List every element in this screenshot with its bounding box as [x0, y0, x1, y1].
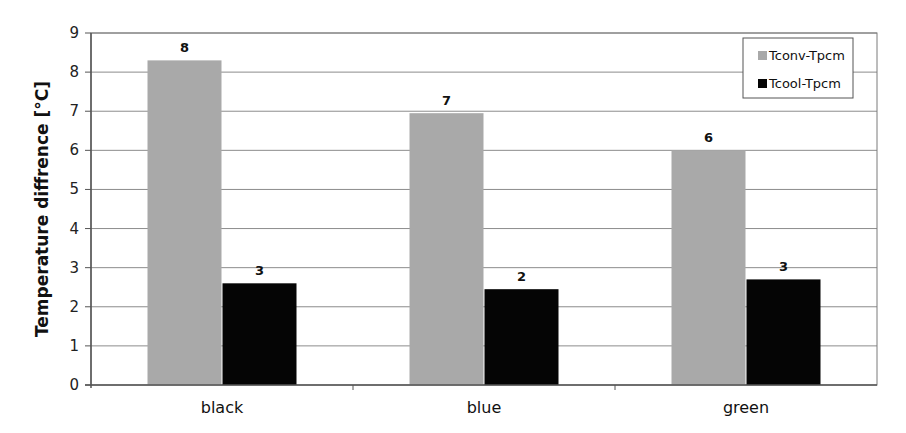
legend-swatch-tconv	[758, 51, 767, 60]
data-label: 8	[180, 40, 189, 55]
x-category-labels: blackbluegreen	[201, 398, 769, 417]
y-tick-label: 5	[69, 180, 79, 198]
bar-tconv-tpcm-blue	[410, 113, 484, 385]
y-tick-label: 9	[69, 24, 79, 42]
data-label: 3	[779, 259, 788, 274]
x-category-label: green	[723, 398, 769, 417]
y-tick-label: 6	[69, 141, 79, 159]
bars	[148, 60, 821, 385]
y-tick-label: 0	[69, 376, 79, 394]
data-label: 6	[704, 130, 713, 145]
bar-tconv-tpcm-black	[148, 60, 222, 385]
bar-chart: 0123456789 blackbluegreen 837263 Tempera…	[0, 0, 906, 433]
y-axis-title: Temperature diffrence [°C]	[32, 81, 52, 337]
bar-tcool-tpcm-black	[223, 283, 297, 385]
x-category-label: black	[201, 398, 244, 417]
y-tick-label: 2	[69, 298, 79, 316]
y-tick-label: 3	[69, 259, 79, 277]
legend: Tconv-Tpcm Tcool-Tpcm	[743, 38, 853, 98]
y-tick-label: 4	[69, 220, 79, 238]
bar-tcool-tpcm-blue	[485, 289, 559, 385]
data-label: 2	[517, 269, 526, 284]
bar-tcool-tpcm-green	[747, 279, 821, 385]
legend-swatch-tcool	[758, 79, 767, 88]
bar-tconv-tpcm-green	[672, 150, 746, 385]
x-category-label: blue	[467, 398, 502, 417]
y-tick-label: 8	[69, 63, 79, 81]
legend-label-tconv: Tconv-Tpcm	[768, 48, 845, 63]
y-tick-label: 7	[69, 102, 79, 120]
legend-label-tcool: Tcool-Tpcm	[768, 76, 841, 91]
data-label: 7	[442, 93, 451, 108]
y-tick-label: 1	[69, 337, 79, 355]
y-tick-labels: 0123456789	[69, 24, 79, 394]
data-label: 3	[255, 263, 264, 278]
